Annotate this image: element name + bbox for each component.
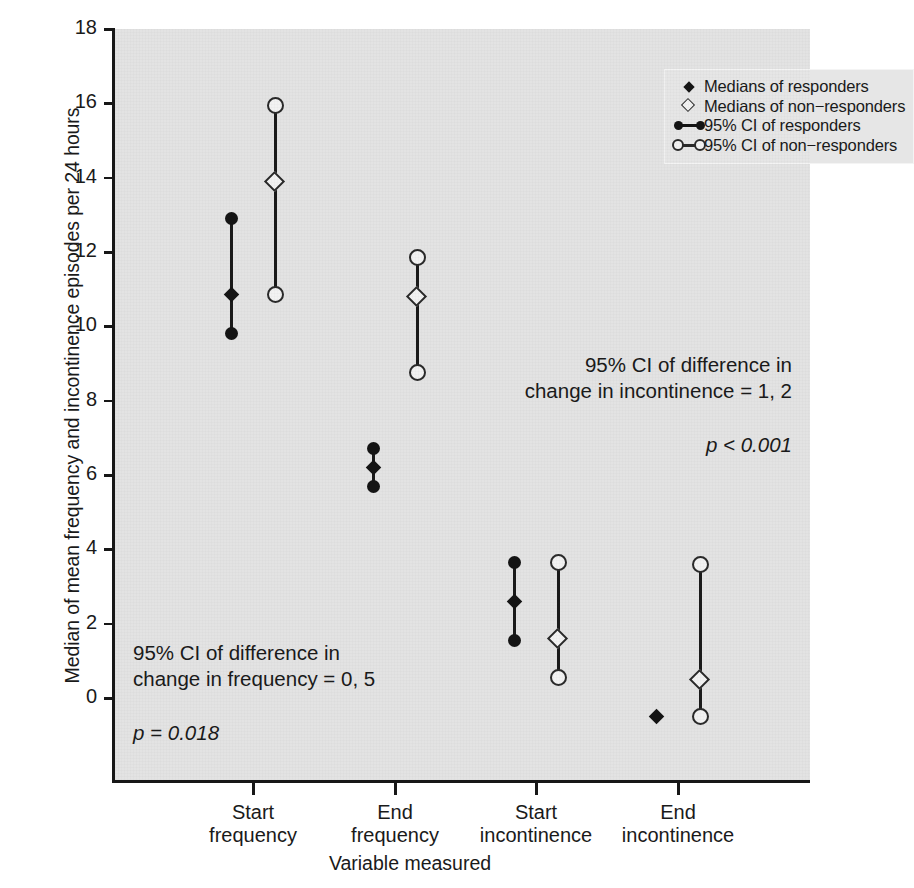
median-filled-diamond xyxy=(223,287,239,303)
x-tick-mark xyxy=(394,783,397,795)
y-axis-label: Median of mean frequency and incontinenc… xyxy=(61,46,84,746)
y-tick-mark xyxy=(104,177,115,180)
open-circle-bar-icon xyxy=(674,136,704,156)
x-axis-label: Variable measured xyxy=(0,852,820,875)
y-tick-mark xyxy=(104,474,115,477)
ci-endpoint-filled-circle xyxy=(225,327,238,340)
annotation-frequency: 95% CI of difference in change in freque… xyxy=(133,613,375,773)
y-tick-label: 0 xyxy=(86,685,97,708)
x-tick-label: Endincontinence xyxy=(588,801,768,847)
legend: Medians of respondersMedians of non−resp… xyxy=(664,69,914,164)
y-tick-mark xyxy=(104,251,115,254)
y-tick-label: 2 xyxy=(86,611,97,634)
median-open-diamond xyxy=(406,286,427,307)
ci-endpoint-open-circle xyxy=(409,249,426,266)
ci-endpoint-open-circle xyxy=(692,556,709,573)
y-tick-label: 14 xyxy=(75,165,97,188)
y-tick-label: 18 xyxy=(75,16,97,39)
x-tick-mark xyxy=(252,783,255,795)
open-diamond-icon xyxy=(674,97,704,117)
legend-item-1: Medians of non−responders xyxy=(674,97,904,117)
filled-circle-bar-icon xyxy=(674,116,704,136)
ci-endpoint-open-circle xyxy=(267,286,284,303)
ci-endpoint-filled-circle xyxy=(508,634,521,647)
legend-item-label: 95% CI of responders xyxy=(704,116,861,135)
median-filled-diamond xyxy=(365,460,381,476)
y-tick-mark xyxy=(104,102,115,105)
filled-diamond-icon xyxy=(674,77,704,97)
ci-endpoint-filled-circle xyxy=(367,442,380,455)
legend-item-0: Medians of responders xyxy=(674,77,904,97)
ci-endpoint-filled-circle xyxy=(508,556,521,569)
x-tick-mark xyxy=(535,783,538,795)
ci-endpoint-open-circle xyxy=(409,364,426,381)
y-tick-mark xyxy=(104,697,115,700)
y-tick-label: 8 xyxy=(86,388,97,411)
x-tick-label-line2: incontinence xyxy=(588,824,768,847)
ci-endpoint-open-circle xyxy=(550,554,567,571)
ci-line xyxy=(274,105,277,295)
y-tick-label: 4 xyxy=(86,536,97,559)
legend-item-label: 95% CI of non−responders xyxy=(704,136,897,155)
y-tick-label: 12 xyxy=(75,239,97,262)
x-tick-label-line1: End xyxy=(588,801,768,824)
y-tick-label: 16 xyxy=(75,90,97,113)
ci-endpoint-filled-circle xyxy=(225,212,238,225)
annotation-incontinence: 95% CI of difference in change in incont… xyxy=(525,325,792,485)
median-open-diamond xyxy=(689,669,710,690)
y-tick-label: 10 xyxy=(75,313,97,336)
y-tick-mark xyxy=(104,400,115,403)
x-tick-mark xyxy=(677,783,680,795)
y-tick-mark xyxy=(104,28,115,31)
legend-item-3: 95% CI of non−responders xyxy=(674,136,904,156)
median-filled-diamond xyxy=(506,594,522,610)
ci-endpoint-open-circle xyxy=(550,669,567,686)
legend-item-2: 95% CI of responders xyxy=(674,116,904,136)
legend-item-label: Medians of responders xyxy=(704,77,869,96)
median-open-diamond xyxy=(547,628,568,649)
ci-line xyxy=(699,564,702,716)
ci-endpoint-filled-circle xyxy=(367,480,380,493)
y-tick-mark xyxy=(104,548,115,551)
plot-area: 024681012141618 StartfrequencyEndfrequen… xyxy=(112,29,810,783)
annotation-incontinence-text: 95% CI of difference in change in incont… xyxy=(525,352,792,405)
median-open-diamond xyxy=(264,171,285,192)
y-tick-label: 6 xyxy=(86,462,97,485)
ci-endpoint-open-circle xyxy=(692,708,709,725)
annotation-incontinence-pvalue: p < 0.001 xyxy=(525,432,792,459)
annotation-frequency-pvalue: p = 0.018 xyxy=(133,720,375,747)
ci-line xyxy=(416,258,419,373)
ci-line xyxy=(557,562,560,677)
ci-endpoint-open-circle xyxy=(267,97,284,114)
annotation-frequency-text: 95% CI of difference in change in freque… xyxy=(133,640,375,693)
median-filled-diamond xyxy=(648,709,664,725)
legend-item-label: Medians of non−responders xyxy=(704,97,905,116)
ci-line xyxy=(230,219,233,334)
y-tick-mark xyxy=(104,325,115,328)
y-tick-mark xyxy=(104,623,115,626)
